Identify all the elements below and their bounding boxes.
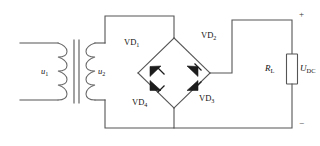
diode-vd1-label: VD1 [124,38,139,48]
rectifier-circuit-figure: u1 u2 VD1 VD2 VD3 VD4 RL UDC + − [0,0,320,146]
positive-terminal-label: + [299,10,304,19]
load-resistor-symbol [287,54,298,84]
primary-winding-label: u1 [41,67,48,77]
diode-vd3-label: VD3 [199,94,214,104]
dc-positive-output-wire [210,20,292,73]
vd2-triangle [187,66,198,77]
vd3-triangle [187,81,198,91]
transformer-symbol [20,40,105,103]
vd4-triangle [150,81,161,91]
diode-vd2-symbol [187,64,202,77]
vd1-triangle [150,66,161,77]
output-voltage-label: UDC [300,64,316,74]
secondary-winding-label: u2 [98,67,105,77]
ac-top-feed-wire [105,16,174,43]
diode-vd1-symbol [150,66,165,77]
vd1-cathode-bar [158,68,165,75]
diode-vd2-label: VD2 [201,31,216,41]
primary-winding-coil [58,43,67,100]
diode-vd4-symbol [150,81,165,93]
diode-vd3-symbol [187,81,202,91]
load-resistor-label: RL [265,64,274,74]
diode-vd4-label: VD4 [132,98,147,108]
secondary-winding-coil [86,43,95,100]
negative-terminal-label: − [299,119,304,128]
